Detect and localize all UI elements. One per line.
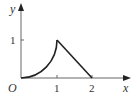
- y-tick-label-1: 1: [10, 34, 16, 46]
- x-tick-label-2: 2: [89, 82, 95, 94]
- x-axis-label: x: [122, 81, 129, 95]
- function-graph: y 1 O 1 2 x: [0, 0, 137, 103]
- x-tick-label-1: 1: [54, 82, 60, 94]
- line-segment: [57, 40, 92, 78]
- y-axis-arrow-icon: [18, 3, 24, 11]
- arc-curve: [21, 40, 57, 78]
- origin-label: O: [8, 81, 17, 95]
- y-axis-label: y: [9, 2, 16, 16]
